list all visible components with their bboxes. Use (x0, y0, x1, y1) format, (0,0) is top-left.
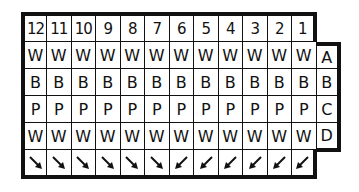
grid-cell: B (243, 69, 268, 96)
arrow-down-right-icon (47, 150, 72, 179)
grid-cell: P (243, 96, 268, 123)
grid-cell: B (145, 69, 170, 96)
column-number-cell: 2 (268, 12, 293, 42)
column-number-cell: 10 (72, 12, 97, 42)
row-label-cell: D (317, 123, 342, 152)
grid-row-a: WWWWWWWWWWWWA (21, 42, 341, 69)
grid-row-d: WWWWWWWWWWWWD (21, 123, 341, 150)
grid-cell: B (292, 69, 317, 96)
arrow-down-left-icon (268, 150, 293, 179)
grid-cell: P (21, 96, 47, 123)
arrow-down-left-icon (170, 150, 195, 179)
grid-cell: W (72, 42, 97, 69)
grid-cell: W (219, 42, 244, 69)
grid-cell: P (268, 96, 293, 123)
row-label-cell: C (317, 96, 342, 123)
grid-cell: W (121, 42, 146, 69)
grid-cell: P (145, 96, 170, 123)
grid-cell: P (96, 96, 121, 123)
arrow-down-left-icon (194, 150, 219, 179)
grid-cell: W (194, 123, 219, 150)
grid-cell: W (268, 42, 293, 69)
arrow-down-left-icon (243, 150, 268, 179)
column-number-cell: 9 (96, 12, 121, 42)
grid-cell: W (96, 123, 121, 150)
grid-cell: W (72, 123, 97, 150)
grid-cell: W (243, 42, 268, 69)
pinout-grid: 121110987654321 WWWWWWWWWWWWABBBBBBBBBBB… (21, 12, 341, 179)
column-number-cell: 11 (47, 12, 72, 42)
column-number-cell: 5 (194, 12, 219, 42)
column-number-cell: 4 (219, 12, 244, 42)
arrow-row (21, 150, 341, 179)
column-number-cell: 6 (170, 12, 195, 42)
grid-cell: W (21, 42, 47, 69)
grid-cell: P (292, 96, 317, 123)
grid-cell: W (96, 42, 121, 69)
grid-cell: P (219, 96, 244, 123)
arrow-down-right-icon (96, 150, 121, 179)
grid-cell: P (72, 96, 97, 123)
arrow-down-right-icon (121, 150, 146, 179)
grid-cell: B (170, 69, 195, 96)
grid-cell: W (145, 123, 170, 150)
grid-row-b: BBBBBBBBBBBBB (21, 69, 341, 96)
grid-cell: W (292, 42, 317, 69)
grid-cell: W (292, 123, 317, 150)
grid-cell: W (121, 123, 146, 150)
grid-cell: B (21, 69, 47, 96)
grid-cell: W (243, 123, 268, 150)
grid-cell: B (96, 69, 121, 96)
column-number-cell: 3 (243, 12, 268, 42)
grid-cell: B (194, 69, 219, 96)
arrow-down-left-icon (219, 150, 244, 179)
grid-cell: B (268, 69, 293, 96)
arrow-down-left-icon (292, 150, 317, 179)
grid-cell: W (21, 123, 47, 150)
grid-cell: W (194, 42, 219, 69)
arrow-down-right-icon (145, 150, 170, 179)
column-number-cell: 7 (145, 12, 170, 42)
column-number-cell: 8 (121, 12, 146, 42)
grid-row-c: PPPPPPPPPPPPC (21, 96, 341, 123)
grid-cell: B (121, 69, 146, 96)
grid-cell: P (121, 96, 146, 123)
grid-cell: B (219, 69, 244, 96)
row-label-cell: B (317, 69, 342, 96)
grid-cell: B (72, 69, 97, 96)
header-row: 121110987654321 (21, 12, 341, 42)
grid-cell: W (145, 42, 170, 69)
grid-cell: B (47, 69, 72, 96)
grid-cell: W (47, 42, 72, 69)
column-number-cell: 12 (21, 12, 47, 42)
grid-cell: P (170, 96, 195, 123)
column-number-cell: 1 (292, 12, 317, 42)
grid-cell: W (219, 123, 244, 150)
arrow-down-right-icon (72, 150, 97, 179)
row-label-cell: A (317, 42, 342, 69)
grid-cell: W (170, 42, 195, 69)
arrow-down-right-icon (21, 150, 47, 179)
grid-cell: W (47, 123, 72, 150)
grid-cell: W (170, 123, 195, 150)
grid-cell: P (47, 96, 72, 123)
grid-cell: W (268, 123, 293, 150)
grid-cell: P (194, 96, 219, 123)
